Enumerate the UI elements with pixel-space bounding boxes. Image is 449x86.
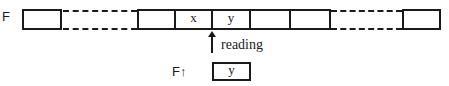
cell-divider: [289, 9, 291, 30]
arrow-shaft: [211, 35, 213, 53]
file-cell-first: [22, 9, 62, 30]
file-cell-x: x: [176, 10, 211, 26]
dashed-top-right: [331, 10, 402, 12]
buffer-value: y: [212, 62, 251, 78]
buffer-label: F↑: [172, 64, 186, 79]
pointer-label: reading: [221, 37, 263, 53]
dashed-top-left: [63, 10, 137, 12]
file-label: F: [2, 9, 10, 24]
file-cell-last: [402, 9, 441, 30]
cell-divider: [249, 9, 251, 30]
dashed-bottom-left: [63, 28, 137, 30]
up-arrow-icon: [208, 31, 216, 37]
file-cell-y: y: [213, 10, 249, 26]
dashed-bottom-right: [331, 28, 402, 30]
